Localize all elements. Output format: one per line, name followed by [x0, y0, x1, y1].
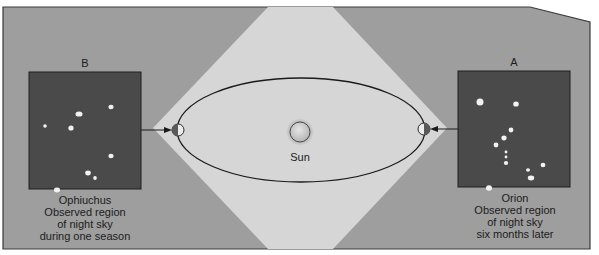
- caption-a: Orion Observed region of night sky six m…: [455, 192, 575, 240]
- star: [505, 156, 508, 159]
- star: [486, 185, 492, 191]
- night-sky-box-a: [458, 71, 570, 191]
- caption-a-line-4: six months later: [455, 228, 575, 240]
- star: [68, 125, 73, 130]
- star: [505, 151, 508, 154]
- caption-a-line-3: of night sky: [455, 216, 575, 228]
- star: [54, 188, 60, 193]
- star: [528, 176, 534, 181]
- caption-a-line-2: Observed region: [455, 204, 575, 216]
- earth-position-a: [418, 123, 430, 135]
- caption-b: Ophiuchus Observed region of night sky d…: [25, 194, 145, 242]
- sun-label: Sun: [280, 151, 320, 163]
- night-sky-box-b: [29, 72, 141, 192]
- star: [108, 105, 113, 109]
- box-b-letter: B: [75, 57, 95, 69]
- star: [43, 124, 47, 128]
- sun-icon: [290, 122, 310, 142]
- parallax-diagram: B A Sun Ophiuchus Observed region of nig…: [0, 0, 599, 255]
- star: [93, 176, 97, 180]
- star: [477, 99, 484, 106]
- earth-position-b: [172, 124, 184, 136]
- star: [108, 154, 113, 158]
- star: [504, 161, 508, 165]
- sun: [286, 118, 314, 146]
- star: [501, 136, 506, 141]
- star: [541, 163, 546, 167]
- star: [509, 128, 514, 133]
- star: [526, 168, 530, 172]
- star: [513, 101, 519, 106]
- star: [76, 111, 83, 116]
- caption-b-line-1: Ophiuchus: [25, 194, 145, 206]
- caption-b-line-2: Observed region: [25, 206, 145, 218]
- box-a-letter: A: [504, 56, 524, 68]
- star: [494, 143, 499, 148]
- star: [85, 171, 91, 176]
- caption-b-line-4: during one season: [25, 230, 145, 242]
- caption-a-line-1: Orion: [455, 192, 575, 204]
- caption-b-line-3: of night sky: [25, 218, 145, 230]
